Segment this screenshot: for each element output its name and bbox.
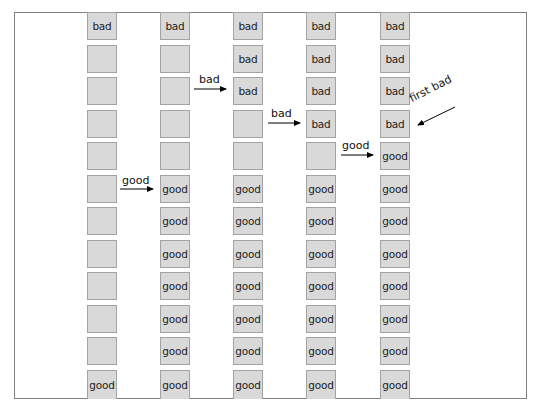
arrow-first-bad <box>418 107 455 125</box>
arrow-label-good-4: good <box>342 139 369 152</box>
arrow-label-bad-2: bad <box>199 73 220 86</box>
arrows-layer <box>0 0 543 415</box>
arrow-label-bad-3: bad <box>271 107 292 120</box>
arrow-label-good-1: good <box>122 174 149 187</box>
